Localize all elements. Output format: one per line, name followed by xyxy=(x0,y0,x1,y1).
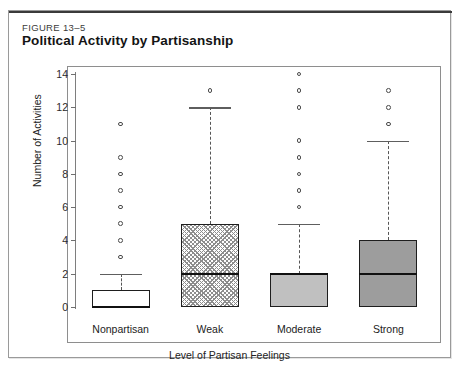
whisker-cap-upper xyxy=(100,274,142,275)
y-tick: 8 xyxy=(71,174,76,175)
y-tick-label: 14 xyxy=(56,68,68,80)
outlier-point[interactable] xyxy=(297,205,302,210)
y-tick: 0 xyxy=(71,307,76,308)
outlier-point[interactable] xyxy=(297,88,302,93)
y-axis-title: Number of Activities xyxy=(31,94,43,187)
figure-number: FIGURE 13–5 xyxy=(22,22,86,33)
outlier-point[interactable] xyxy=(386,88,391,93)
outlier-point[interactable] xyxy=(297,72,302,77)
whisker-line-upper xyxy=(210,107,211,224)
median-line xyxy=(359,273,417,275)
x-category-label-nonpartisan: Nonpartisan xyxy=(92,323,149,335)
outlier-point[interactable] xyxy=(297,138,302,143)
y-tick: 6 xyxy=(71,207,76,208)
x-category-label-strong: Strong xyxy=(373,323,404,335)
box[interactable] xyxy=(92,290,150,307)
x-category-label-weak: Weak xyxy=(197,323,224,335)
figure-card: FIGURE 13–5 Political Activity by Partis… xyxy=(8,10,451,358)
whisker-cap-upper xyxy=(278,224,320,225)
x-category-label-moderate: Moderate xyxy=(277,323,321,335)
y-tick-label: 10 xyxy=(56,135,68,147)
outlier-point[interactable] xyxy=(118,155,123,160)
outlier-point[interactable] xyxy=(208,88,213,93)
outlier-point[interactable] xyxy=(118,205,123,210)
outlier-point[interactable] xyxy=(118,238,123,243)
figure-top-rule xyxy=(9,11,452,13)
figure-title: Political Activity by Partisanship xyxy=(22,33,233,48)
outlier-point[interactable] xyxy=(297,155,302,160)
y-tick-label: 0 xyxy=(62,301,68,313)
median-line xyxy=(270,273,328,275)
plot-area: 02468101214 xyxy=(76,74,433,307)
whisker-cap-upper xyxy=(367,141,409,142)
y-tick-label: 4 xyxy=(62,234,68,246)
whisker-line-upper xyxy=(121,274,122,291)
y-tick-label: 12 xyxy=(56,101,68,113)
y-tick: 10 xyxy=(71,141,76,142)
outlier-point[interactable] xyxy=(118,122,123,127)
y-tick-label: 8 xyxy=(62,168,68,180)
outlier-point[interactable] xyxy=(297,105,302,110)
y-tick-label: 2 xyxy=(62,268,68,280)
y-tick: 14 xyxy=(71,74,76,75)
y-tick: 2 xyxy=(71,274,76,275)
box[interactable] xyxy=(270,274,328,307)
x-axis-title: Level of Partisan Feelings xyxy=(9,349,450,361)
outlier-point[interactable] xyxy=(118,188,123,193)
outlier-point[interactable] xyxy=(297,172,302,177)
median-line xyxy=(181,273,239,275)
y-tick: 12 xyxy=(71,107,76,108)
whisker-line-upper xyxy=(388,141,389,241)
y-tick-label: 6 xyxy=(62,201,68,213)
whisker-cap-upper xyxy=(189,107,231,108)
outlier-point[interactable] xyxy=(297,188,302,193)
median-line xyxy=(92,306,150,308)
outlier-point[interactable] xyxy=(118,172,123,177)
y-tick: 4 xyxy=(71,240,76,241)
outlier-point[interactable] xyxy=(386,105,391,110)
box[interactable] xyxy=(181,224,239,307)
outlier-point[interactable] xyxy=(118,221,123,226)
whisker-line-upper xyxy=(299,224,300,274)
outlier-point[interactable] xyxy=(386,122,391,127)
outlier-point[interactable] xyxy=(118,255,123,260)
